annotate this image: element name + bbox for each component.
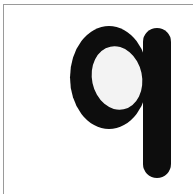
letter-glyph-q [0, 0, 193, 194]
letter-q-vector [0, 0, 193, 194]
scanned-letter-card: q [0, 0, 193, 194]
letter-q-ink [70, 26, 171, 178]
